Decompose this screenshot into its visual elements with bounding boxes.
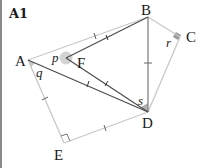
angle-label-s: s: [138, 93, 143, 108]
vertex-label-D: D: [142, 115, 153, 131]
figure-frame: A1 A B C D E F p: [0, 0, 206, 168]
vertex-label-C: C: [186, 29, 196, 45]
vertex-label-F: F: [77, 55, 85, 71]
segment-BC: [148, 17, 180, 37]
geometry-diagram: A B C D E F p q r s: [2, 0, 206, 168]
vertex-label-B: B: [141, 2, 151, 18]
angle-label-p: p: [51, 50, 59, 65]
vertex-label-A: A: [15, 53, 26, 69]
segment-AB: [28, 17, 148, 60]
segment-AD: [28, 60, 148, 112]
segment-CD: [148, 37, 180, 112]
vertex-label-E: E: [54, 147, 63, 163]
angle-label-q: q: [36, 65, 43, 80]
segment-AE: [28, 60, 64, 143]
segment-ED: [64, 112, 148, 143]
angle-label-r: r: [166, 35, 172, 50]
